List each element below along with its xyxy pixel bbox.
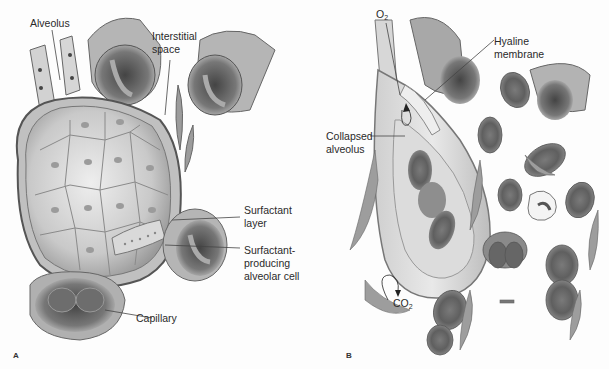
label-hyaline-line1: Hyaline [494,35,529,47]
panel-label-b: B [346,351,352,360]
alveolus-sac [17,98,181,288]
label-surfactant-cell-line3: alveolar cell [244,270,299,282]
label-hyaline-line2: membrane [494,48,544,60]
label-surfactant-cell-line1: Surfactant- [244,244,295,256]
label-alveolus: Alveolus [30,17,70,29]
o2-subscript: 2 [384,14,388,21]
label-collapsed-line1: Collapsed [326,130,373,142]
collapsed-alveolus [374,70,490,298]
label-collapsed-line2: alveolus [326,143,365,155]
label-surfactant-layer-line2: layer [244,217,267,229]
capillary-bottom [30,272,125,340]
label-interstitial-line2: space [152,43,180,55]
label-capillary: Capillary [136,312,177,324]
co2-subscript: 2 [409,303,413,310]
label-co2: CO2 [393,297,413,313]
o2-text: O [376,8,384,20]
label-interstitial-line1: Interstitial [152,30,197,42]
capillary-b-top-right [530,64,590,120]
co2-text: CO [393,297,409,309]
capillary-top-right [188,31,275,115]
capillary-b-top [410,18,480,105]
label-surfactant-cell-line2: producing [244,257,290,269]
panel-label-a: A [13,351,19,360]
label-surfactant-layer-line1: Surfactant [244,204,292,216]
panel-b-art [350,18,598,356]
panel-a-art [17,18,275,340]
label-o2: O2 [376,8,388,24]
capillary-top-left [88,18,161,105]
